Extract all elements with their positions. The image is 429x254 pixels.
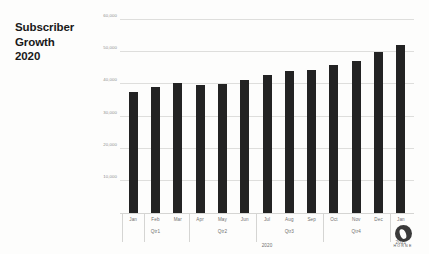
y-axis-tick-label: 40,000 xyxy=(103,77,117,82)
y-axis-tick-label: 30,000 xyxy=(103,109,117,114)
quarter-label: Qtr4 xyxy=(345,229,367,235)
category-axis: JanFebQtr1MarAprMayQtr2JunJulAugQtr3SepO… xyxy=(120,213,414,254)
y-axis-tick-label: 10,000 xyxy=(103,173,117,178)
axis-separator xyxy=(256,214,257,242)
axis-title: 2020 xyxy=(120,243,414,248)
bar-slot xyxy=(390,20,412,213)
bar xyxy=(173,83,182,213)
quarter-label xyxy=(301,229,323,235)
bar-slot xyxy=(144,20,166,213)
bar xyxy=(240,80,249,213)
bar xyxy=(374,52,383,213)
quarter-label: Qtr2 xyxy=(211,229,233,235)
bar xyxy=(307,70,316,213)
month-label: Nov xyxy=(345,217,367,222)
bar-slot xyxy=(345,20,367,213)
horne-logo-icon xyxy=(395,225,412,242)
month-label: Sep xyxy=(301,217,323,222)
axis-separator xyxy=(189,214,190,242)
y-axis-tick-label: 20,000 xyxy=(103,141,117,146)
month-label: Jan xyxy=(390,217,412,222)
title-line-2: Growth xyxy=(15,35,93,50)
month-label: Oct xyxy=(323,217,345,222)
month-label: Jan xyxy=(122,217,144,222)
quarter-label xyxy=(256,229,278,235)
bar-slot xyxy=(211,20,233,213)
bar-slot xyxy=(323,20,345,213)
month-label: Jun xyxy=(234,217,256,222)
month-label: Dec xyxy=(367,217,389,222)
bar-slot xyxy=(301,20,323,213)
quarter-label xyxy=(189,229,211,235)
bar xyxy=(218,84,227,213)
bar-series xyxy=(120,20,414,213)
quarter-label xyxy=(323,229,345,235)
bar-slot xyxy=(122,20,144,213)
title-line-3: 2020 xyxy=(15,49,93,64)
slide-canvas: Subscriber Growth 2020 10,00020,00030,00… xyxy=(0,0,429,254)
quarter-label xyxy=(167,229,189,235)
horne-logo-text: HORNE xyxy=(386,244,420,248)
y-axis-tick-label: 60,000 xyxy=(103,13,117,18)
horne-logo: HORNE xyxy=(386,225,420,248)
bar-slot xyxy=(256,20,278,213)
bar xyxy=(196,85,205,213)
bar xyxy=(352,61,361,213)
y-axis-tick-label: 50,000 xyxy=(103,45,117,50)
bar xyxy=(151,87,160,213)
bar xyxy=(329,65,338,213)
page-title: Subscriber Growth 2020 xyxy=(15,20,93,64)
axis-separator xyxy=(323,214,324,242)
month-label: May xyxy=(211,217,233,222)
bar xyxy=(285,71,294,213)
bar xyxy=(263,75,272,213)
month-label: Mar xyxy=(167,217,189,222)
axis-separator xyxy=(144,214,145,242)
bar-slot xyxy=(167,20,189,213)
bar-slot xyxy=(189,20,211,213)
quarter-label: Qtr1 xyxy=(144,229,166,235)
bar-slot xyxy=(234,20,256,213)
month-label: Jul xyxy=(256,217,278,222)
quarter-label xyxy=(122,229,144,235)
bar-chart: 10,00020,00030,00040,00050,00060,000 Jan… xyxy=(96,12,418,250)
bar-slot xyxy=(278,20,300,213)
month-label: Feb xyxy=(144,217,166,222)
month-label: Aug xyxy=(278,217,300,222)
quarter-label xyxy=(234,229,256,235)
plot-area: 10,00020,00030,00040,00050,00060,000 xyxy=(120,20,414,213)
bar-slot xyxy=(367,20,389,213)
month-label: Apr xyxy=(189,217,211,222)
axis-separator xyxy=(122,214,123,242)
bar xyxy=(396,45,405,213)
bar xyxy=(129,92,138,213)
quarter-label: Qtr3 xyxy=(278,229,300,235)
title-line-1: Subscriber xyxy=(15,20,93,35)
